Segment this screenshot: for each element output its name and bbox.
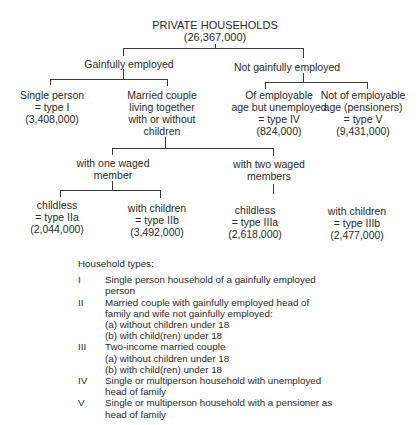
connector-line	[123, 69, 124, 79]
legend-item-v: V Single or multiperson household with a…	[78, 397, 332, 419]
household-types-legend: Household types: I Single person househo…	[78, 258, 332, 420]
node-line: = type IIb	[128, 214, 186, 226]
node-line: childless	[30, 199, 84, 211]
married-couple-node: Married couple living together with or w…	[127, 89, 196, 137]
node-line: = type I	[20, 101, 84, 113]
node-line: = type IIa	[30, 211, 84, 223]
node-line: (3,408,000)	[20, 113, 84, 125]
connector-line	[50, 79, 168, 80]
node-line: = type IV	[231, 113, 326, 125]
legend-line: family and wife not gainfully employed:	[105, 308, 309, 319]
node-line: (2,044,000)	[30, 223, 84, 235]
legend-num: V	[78, 397, 105, 419]
not-gainfully-employed-node: Not gainfully employed	[234, 61, 340, 73]
node-line: (3,492,000)	[128, 226, 186, 238]
legend-item-ii: II Married couple with gainfully employe…	[78, 297, 332, 342]
type-iia-node: childless = type IIa (2,044,000)	[30, 199, 84, 235]
legend-num: III	[78, 341, 105, 375]
legend-item-i: I Single person household of a gainfully…	[78, 274, 332, 296]
two-waged-node: with two waged members	[233, 158, 305, 182]
legend-line: Single or multiperson household with une…	[105, 375, 321, 386]
legend-line: Married couple with gainfully employed h…	[105, 297, 309, 308]
node-line: = type IIIa	[228, 216, 282, 228]
node-line: children	[127, 125, 196, 137]
connector-line	[60, 190, 61, 197]
legend-num: II	[78, 297, 105, 342]
legend-line: (a) without children under 18	[105, 319, 309, 330]
node-line: (2,618,000)	[228, 228, 282, 240]
connector-line	[160, 190, 161, 198]
connector-line	[112, 148, 113, 155]
unemployed-node: Of employable age but unemployed = type …	[231, 89, 326, 137]
single-person-node: Single person = type I (3,408,000)	[20, 89, 84, 125]
node-line: (2,477,000)	[328, 229, 386, 241]
type-iiia-node: childless = type IIIa (2,618,000)	[228, 204, 282, 240]
node-line: Not of employable	[321, 89, 406, 101]
connector-line	[165, 137, 166, 148]
legend-desc: Single or multiperson household with a p…	[105, 397, 332, 419]
node-line: members	[233, 170, 305, 182]
connector-line	[112, 148, 274, 149]
not-gainfully-employed-label: Not gainfully employed	[234, 61, 340, 73]
legend-item-iv: IV Single or multiperson household with …	[78, 375, 332, 397]
connector-line	[273, 148, 274, 156]
node-line: living together	[127, 101, 196, 113]
connector-line	[50, 79, 51, 85]
type-iib-node: with children = type IIb (3,492,000)	[128, 202, 186, 238]
legend-item-iii: III Two-income married couple (a) withou…	[78, 341, 332, 375]
legend-line: Two-income married couple	[105, 341, 229, 352]
legend-line: head of family	[105, 409, 332, 420]
node-line: age but unemployed	[231, 101, 326, 113]
legend-desc: Single person household of a gainfully e…	[105, 274, 316, 296]
root-value: (26,367,000)	[152, 31, 278, 43]
node-line: = type V	[321, 113, 406, 125]
legend-line: Single or multiperson household with a p…	[105, 397, 332, 408]
connector-line	[167, 79, 168, 86]
node-line: with or without	[127, 113, 196, 125]
connector-line	[273, 184, 274, 194]
node-line: (824,000)	[231, 125, 326, 137]
legend-line: Single person household of a gainfully e…	[105, 274, 316, 285]
root-label: PRIVATE HOUSEHOLDS	[152, 19, 278, 31]
legend-line: (a) without children under 18	[105, 353, 229, 364]
connector-line	[303, 48, 304, 58]
node-line: with children	[328, 205, 386, 217]
root-node: PRIVATE HOUSEHOLDS (26,367,000)	[152, 19, 278, 43]
legend-line: head of family	[105, 386, 321, 397]
legend-desc: Single or multiperson household with une…	[105, 375, 321, 397]
connector-line	[112, 181, 113, 190]
connector-line	[367, 82, 368, 89]
type-iiib-node: with children = type IIIb (2,477,000)	[328, 205, 386, 241]
connector-line	[60, 190, 161, 191]
node-line: age (pensioners)	[321, 101, 406, 113]
node-line: with one waged	[77, 157, 150, 169]
connector-line	[265, 82, 266, 89]
connector-line	[123, 48, 124, 56]
connector-line	[123, 48, 304, 49]
legend-desc: Married couple with gainfully employed h…	[105, 297, 309, 342]
gainfully-employed-label: Gainfully employed	[84, 58, 173, 70]
legend-title: Household types:	[78, 258, 332, 269]
pensioners-node: Not of employable age (pensioners) = typ…	[321, 89, 406, 137]
legend-desc: Two-income married couple (a) without ch…	[105, 341, 229, 375]
node-line: Single person	[20, 89, 84, 101]
connector-line	[265, 82, 368, 83]
node-line: (9,431,000)	[321, 125, 406, 137]
legend-num: IV	[78, 375, 105, 397]
connector-line	[303, 73, 304, 82]
node-line: member	[77, 169, 150, 181]
legend-line: (b) with child(ren) under 18	[105, 364, 229, 375]
node-line: Of employable	[231, 89, 326, 101]
legend-line: (b) with child(ren) under 18	[105, 330, 309, 341]
node-line: with children	[128, 202, 186, 214]
gainfully-employed-node: Gainfully employed	[84, 58, 173, 70]
one-waged-node: with one waged member	[77, 157, 150, 181]
node-line: childless	[228, 204, 282, 216]
legend-num: I	[78, 274, 105, 296]
node-line: = type IIIb	[328, 217, 386, 229]
node-line: with two waged	[233, 158, 305, 170]
node-line: Married couple	[127, 89, 196, 101]
legend-line: person	[105, 285, 316, 296]
